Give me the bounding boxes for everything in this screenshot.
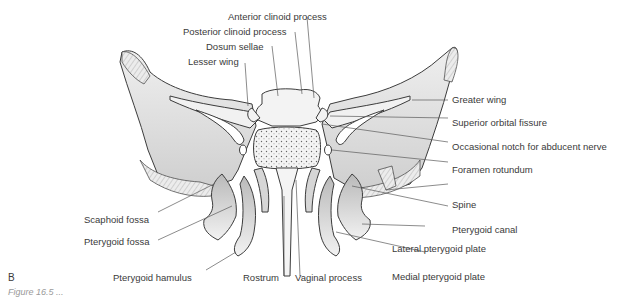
rostrum xyxy=(254,168,320,276)
label-anterior-clinoid-process: Anterior clinoid process xyxy=(228,11,327,22)
label-pterygoid-hamulus: Pterygoid hamulus xyxy=(113,272,192,283)
label-lateral-pterygoid-plate: Lateral pterygoid plate xyxy=(392,243,486,254)
label-dosum-sellae: Dosum sellae xyxy=(206,41,264,52)
label-scaphoid-fossa: Scaphoid fossa xyxy=(84,214,149,225)
label-foramen-rotundum: Foramen rotundum xyxy=(452,164,533,175)
dorsum-sellae xyxy=(248,89,328,126)
label-spine: Spine xyxy=(452,199,476,210)
figure-caption: Figure 16.5 ... xyxy=(8,287,64,297)
label-posterior-clinoid-process: Posterior clinoid process xyxy=(183,26,287,37)
label-vaginal-process: Vaginal process xyxy=(295,272,362,283)
label-medial-pterygoid-plate: Medial pterygoid plate xyxy=(392,271,485,282)
label-pterygoid-fossa: Pterygoid fossa xyxy=(84,236,149,247)
label-rostrum: Rostrum xyxy=(243,272,279,283)
label-greater-wing: Greater wing xyxy=(452,94,506,105)
label-superior-orbital-fissure: Superior orbital fissure xyxy=(452,117,547,128)
sphenoid-body xyxy=(254,127,321,169)
label-occasional-notch: Occasional notch for abducent nerve xyxy=(452,141,607,152)
label-lesser-wing: Lesser wing xyxy=(188,56,239,67)
label-pterygoid-canal: Pterygoid canal xyxy=(452,224,517,235)
panel-letter: B xyxy=(8,272,15,283)
